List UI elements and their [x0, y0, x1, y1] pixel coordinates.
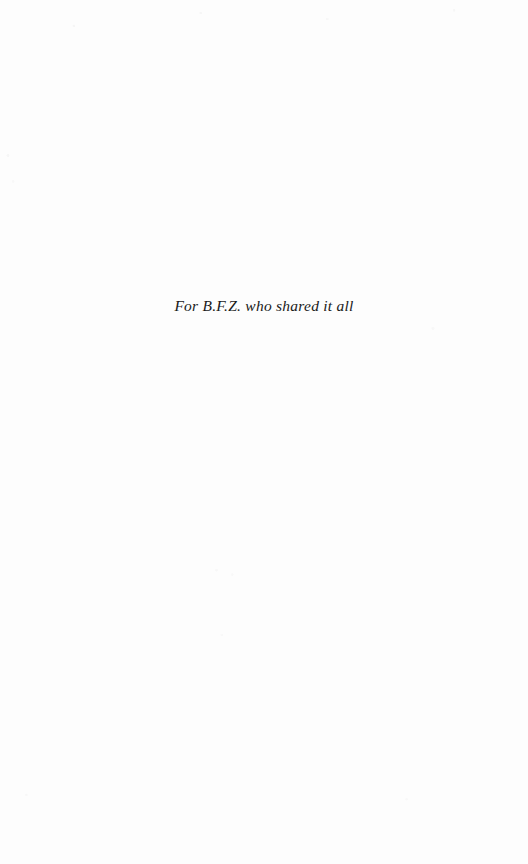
- dedication-block: For B.F.Z. who shared it all: [0, 296, 528, 316]
- paper-grain-texture: [0, 0, 528, 864]
- dedication-text: For B.F.Z. who shared it all: [174, 296, 353, 316]
- scanned-book-page: For B.F.Z. who shared it all: [0, 0, 528, 864]
